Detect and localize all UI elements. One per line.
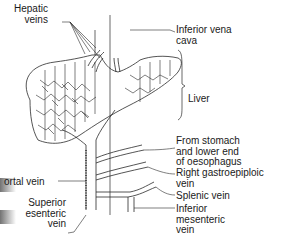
- label-inferior-mesenteric-vein: Inferior mesenteric vein: [176, 204, 225, 236]
- label-superior-mesenteric-vein: Superior esenteric vein: [8, 198, 66, 230]
- label-liver: Liver: [188, 94, 210, 105]
- label-hepatic-veins: Hepatic veins: [14, 4, 48, 25]
- label-inferior-vena-cava: Inferior vena cava: [176, 25, 232, 46]
- label-right-gastroepiploic-vein: Right gastroepiploic vein: [176, 168, 264, 189]
- liver-outline: [26, 55, 181, 143]
- label-portal-vein: ortal vein: [4, 177, 45, 188]
- label-splenic-vein: Splenic vein: [176, 191, 230, 202]
- liver-mesh: [36, 60, 170, 141]
- label-from-stomach: From stomach and lower end of oesophagus: [176, 136, 242, 168]
